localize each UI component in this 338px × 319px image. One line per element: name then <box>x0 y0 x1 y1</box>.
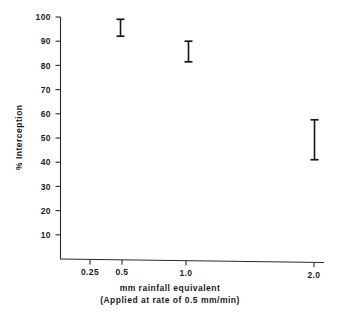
x-tick-label-0-25: 0.25 <box>81 267 99 277</box>
error-bar-2-0 <box>311 120 319 160</box>
x-tick-label-2-0: 2.0 <box>307 270 320 280</box>
chart-canvas: 100 90 80 70 60 50 40 30 20 10 0.25 0.5 … <box>0 0 338 319</box>
x-axis-line <box>60 259 324 263</box>
y-tick-label-60: 60 <box>41 109 51 119</box>
y-tick-label-20: 20 <box>41 206 51 216</box>
y-tick-label-50: 50 <box>41 133 51 143</box>
x-axis-title-line1: mm rainfall equivalent <box>120 283 221 293</box>
y-tick-label-70: 70 <box>41 85 51 95</box>
error-bar-0-5 <box>117 19 125 36</box>
x-tick-label-1-0: 1.0 <box>179 268 192 278</box>
y-tick-label-80: 80 <box>41 61 51 71</box>
x-tick-label-0-5: 0.5 <box>115 267 128 277</box>
y-tick-label-10: 10 <box>41 230 51 240</box>
y-tick-label-90: 90 <box>41 36 51 46</box>
y-tick-label-30: 30 <box>41 182 51 192</box>
y-axis-ticks <box>56 17 61 235</box>
y-axis-title: % Interception <box>14 104 24 170</box>
error-bar-1-0 <box>185 41 193 62</box>
chart-figure: 100 90 80 70 60 50 40 30 20 10 0.25 0.5 … <box>0 0 338 319</box>
x-axis-title-line2: (Applied at rate of 0.5 mm/min) <box>100 295 240 305</box>
y-tick-label-100: 100 <box>36 12 51 22</box>
y-tick-label-40: 40 <box>41 157 51 167</box>
